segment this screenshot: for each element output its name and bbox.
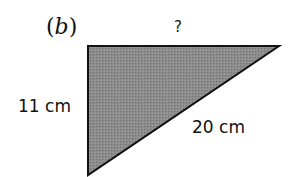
triangle-figure xyxy=(0,0,293,177)
hypotenuse-label: 20 cm xyxy=(192,119,245,136)
left-side-label: 11 cm xyxy=(18,98,71,115)
part-label: (b) xyxy=(46,16,77,38)
right-triangle xyxy=(88,46,279,175)
unknown-side-label: ? xyxy=(174,20,182,35)
